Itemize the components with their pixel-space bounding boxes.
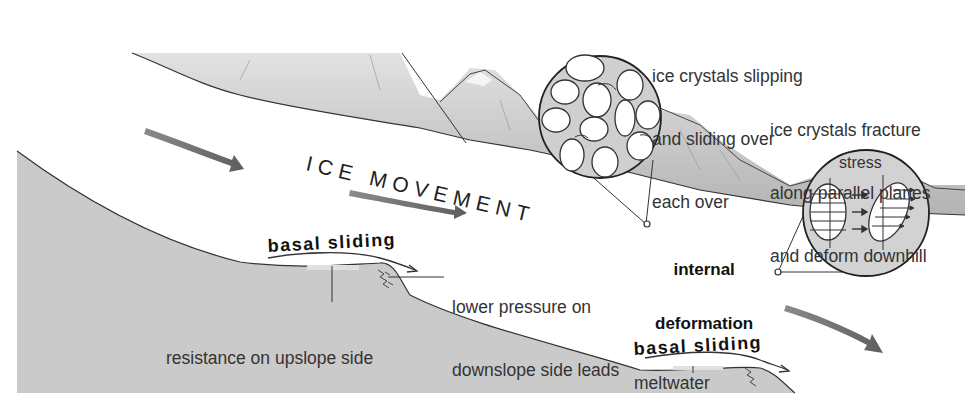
lower-pressure-line-1: lower pressure on	[452, 297, 619, 318]
resistance-line-1: resistance on upslope side	[166, 348, 373, 369]
lower-pressure-line-2: downslope side leads	[452, 360, 619, 381]
internal-deformation-line-1: internal	[655, 261, 753, 279]
lower-pressure-label: lower pressure on downslope side leads t…	[452, 255, 619, 414]
meltwater-label: meltwater	[634, 373, 710, 394]
ice-movement-title: ICE MOVEMENT	[304, 151, 537, 226]
stress-label: stress	[839, 152, 882, 173]
internal-deformation-label: internal deformation	[655, 225, 753, 351]
internal-deformation-line-2: deformation	[655, 315, 753, 333]
meltwater-zone	[673, 366, 723, 370]
melt-zone-highlight	[307, 265, 359, 270]
fracture-label-line-2: along parallel planes	[770, 183, 931, 204]
fracture-label-line-3: and deform downhill	[770, 246, 931, 267]
fracture-label-line-1: ice crystals fracture	[770, 120, 931, 141]
basal-sliding-label-1: basal sliding	[267, 229, 396, 256]
ice-flow-arrow-1	[144, 128, 244, 172]
ice-flow-arrow-3	[784, 305, 883, 353]
fracture-label: ice crystals fracture along parallel pla…	[770, 78, 931, 288]
resistance-label: resistance on upslope side increases pre…	[166, 306, 373, 414]
deformation-leader-dot	[644, 221, 650, 227]
